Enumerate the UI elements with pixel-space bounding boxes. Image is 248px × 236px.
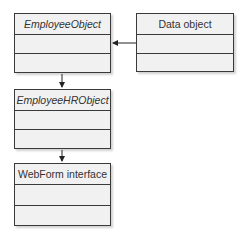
relation-arrows <box>0 0 248 236</box>
